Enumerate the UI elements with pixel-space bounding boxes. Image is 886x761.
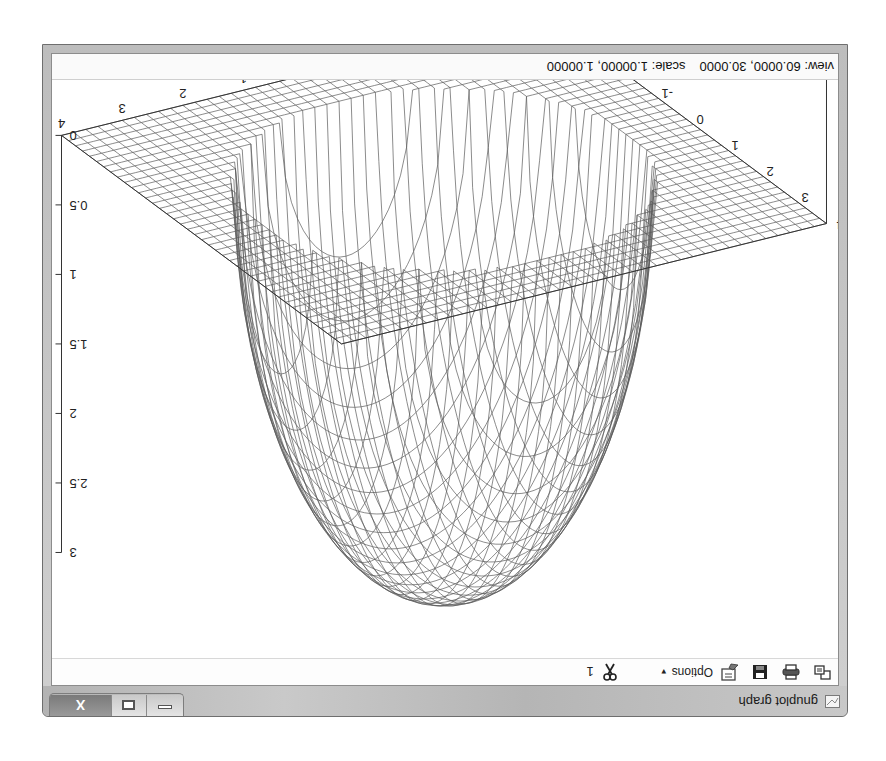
svg-text:2: 2 <box>179 86 186 101</box>
scissors-icon <box>603 663 617 681</box>
maximize-icon <box>123 701 136 711</box>
window-controls: X <box>49 693 184 716</box>
svg-text:2: 2 <box>766 164 773 179</box>
options-icon-button[interactable] <box>719 663 739 681</box>
scissors-button[interactable] <box>600 663 620 681</box>
print-icon <box>781 664 801 680</box>
svg-text:0: 0 <box>70 128 77 143</box>
view-label: view: <box>804 59 834 74</box>
svg-text:4: 4 <box>836 217 838 232</box>
surface-plot: 00.511.522.53-4-3-2-101234-4-3-2-101234 <box>50 78 838 658</box>
window-title: gnuplot graph <box>738 694 818 709</box>
copy-button[interactable] <box>812 663 832 681</box>
svg-text:3: 3 <box>70 545 77 560</box>
copy-icon <box>813 664 831 680</box>
svg-text:4: 4 <box>58 116 65 131</box>
scale-value: 1.00000, 1.00000 <box>547 59 648 74</box>
svg-text:-1: -1 <box>661 86 673 101</box>
plot-canvas[interactable]: 00.511.522.53-4-3-2-101234-4-3-2-101234 <box>52 80 838 658</box>
scale-label: scale: <box>652 59 686 74</box>
options-menu[interactable]: Options <box>672 665 713 679</box>
title-bar[interactable]: gnuplot graph X <box>43 686 847 716</box>
plot-number[interactable]: 1 <box>586 665 593 680</box>
options-icon <box>719 663 739 681</box>
gnuplot-window: gnuplot graph X <box>42 44 848 717</box>
print-button[interactable] <box>781 663 801 681</box>
status-bar: view: 60.0000, 30.0000 scale: 1.00000, 1… <box>52 54 838 80</box>
svg-text:3: 3 <box>119 101 126 116</box>
minimize-icon <box>158 706 172 710</box>
view-value: 60.0000, 30.0000 <box>700 59 801 74</box>
close-icon: X <box>76 698 85 714</box>
svg-text:0.5: 0.5 <box>70 198 88 213</box>
svg-text:1: 1 <box>731 138 738 153</box>
svg-text:0: 0 <box>696 112 703 127</box>
minimize-button[interactable] <box>147 695 183 716</box>
svg-text:2: 2 <box>70 406 77 421</box>
maximize-button[interactable] <box>112 695 147 716</box>
toolbar: Options ▼ 1 <box>52 658 838 685</box>
save-button[interactable] <box>750 663 770 681</box>
gnuplot-graph-icon <box>825 695 840 708</box>
svg-text:3: 3 <box>801 190 808 205</box>
close-button[interactable]: X <box>50 695 112 716</box>
window-client-area: Options ▼ 1 00.511.522.53-4-3-2-101234-4… <box>51 53 839 686</box>
svg-text:2.5: 2.5 <box>70 476 88 491</box>
svg-text:1.5: 1.5 <box>70 337 88 352</box>
save-icon <box>752 664 768 680</box>
options-dropdown-caret[interactable]: ▼ <box>660 668 668 677</box>
svg-text:1: 1 <box>70 267 77 282</box>
